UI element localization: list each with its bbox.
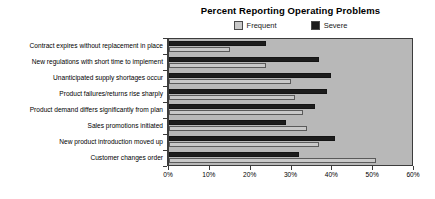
legend-swatch-severe-icon xyxy=(311,21,320,30)
bar-frequent xyxy=(169,95,295,100)
legend-label-frequent: Frequent xyxy=(247,21,277,30)
bar-severe xyxy=(169,136,335,141)
bar-group xyxy=(169,149,412,165)
category-label: Sales promotions initiated xyxy=(0,118,166,134)
bar-group xyxy=(169,39,412,55)
x-axis-tick xyxy=(331,166,332,170)
category-label: Product failures/returns rise sharply xyxy=(0,86,166,102)
bar-severe xyxy=(169,89,327,94)
plot-area xyxy=(168,38,413,166)
bar-group xyxy=(169,102,412,118)
bar-frequent xyxy=(169,79,291,84)
y-axis-tick xyxy=(163,54,167,55)
bar-group xyxy=(169,118,412,134)
legend-label-severe: Severe xyxy=(324,21,348,30)
category-label: Unanticipated supply shortages occur xyxy=(0,70,166,86)
x-axis-label: 0% xyxy=(163,171,173,178)
bar-group xyxy=(169,55,412,71)
y-axis-tick xyxy=(163,150,167,151)
y-axis-tick xyxy=(163,118,167,119)
category-label: Product demand differs significantly fro… xyxy=(0,102,166,118)
y-axis-tick xyxy=(163,166,167,167)
x-axis-label: 40% xyxy=(325,171,338,178)
legend-swatch-frequent-icon xyxy=(234,21,243,30)
chart-title: Percent Reporting Operating Problems xyxy=(168,5,413,16)
x-axis-label: 60% xyxy=(406,171,419,178)
y-axis-tick xyxy=(163,86,167,87)
x-axis-tick xyxy=(372,166,373,170)
x-axis-label: 30% xyxy=(284,171,297,178)
bar-frequent xyxy=(169,63,266,68)
category-label: New product introduction moved up xyxy=(0,134,166,150)
bar-frequent xyxy=(169,47,230,52)
x-axis-tick xyxy=(413,166,414,170)
x-axis: 0%10%20%30%40%50%60% xyxy=(168,166,413,188)
bar-frequent xyxy=(169,110,303,115)
bar-chart: Percent Reporting Operating Problems Fre… xyxy=(0,0,435,199)
chart-legend: Frequent Severe xyxy=(168,21,413,30)
y-axis-tick xyxy=(163,38,167,39)
category-label: Customer changes order xyxy=(0,150,166,166)
x-axis-tick xyxy=(291,166,292,170)
x-axis-tick xyxy=(250,166,251,170)
x-axis-tick xyxy=(209,166,210,170)
bar-severe xyxy=(169,57,319,62)
bar-group xyxy=(169,134,412,150)
y-axis-tick xyxy=(163,70,167,71)
bar-frequent xyxy=(169,126,307,131)
category-label: Contract expires without replacement in … xyxy=(0,38,166,54)
category-axis: Contract expires without replacement in … xyxy=(0,38,166,166)
bar-group xyxy=(169,71,412,87)
bar-frequent xyxy=(169,142,319,147)
bar-severe xyxy=(169,73,331,78)
bars-layer xyxy=(169,39,412,165)
legend-item-severe: Severe xyxy=(311,21,348,30)
y-axis-tick xyxy=(163,134,167,135)
x-axis-label: 50% xyxy=(366,171,379,178)
bar-group xyxy=(169,86,412,102)
x-axis-label: 10% xyxy=(202,171,215,178)
x-axis-tick xyxy=(168,166,169,170)
bar-severe xyxy=(169,120,286,125)
bar-severe xyxy=(169,41,266,46)
x-axis-label: 20% xyxy=(243,171,256,178)
category-label: New regulations with short time to imple… xyxy=(0,54,166,70)
bar-severe xyxy=(169,104,315,109)
bar-severe xyxy=(169,152,299,157)
legend-item-frequent: Frequent xyxy=(234,21,277,30)
bar-frequent xyxy=(169,158,376,163)
y-axis-tick xyxy=(163,102,167,103)
